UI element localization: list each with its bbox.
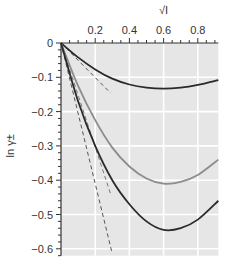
y-tick-label: −0.6 [31, 243, 53, 255]
y-tick-label: −0.5 [31, 209, 53, 221]
x-tick-label: 0.6 [156, 24, 171, 36]
x-tick-label: 0.8 [190, 24, 205, 36]
plot-background [61, 43, 218, 256]
x-tick-label: 0.2 [88, 24, 103, 36]
x-tick-label: 0.4 [122, 24, 137, 36]
y-tick-label: −0.3 [31, 140, 53, 152]
y-tick-label: −0.2 [31, 106, 53, 118]
y-tick-label: −0.4 [31, 174, 53, 186]
y-tick-label: −0.1 [31, 71, 53, 83]
y-tick-label: 0 [47, 37, 53, 49]
plot-area [61, 43, 218, 256]
y-axis-title: ln γ± [4, 134, 16, 157]
chart: 0.20.40.60.80−0.1−0.2−0.3−0.4−0.5−0.6√Il… [0, 0, 226, 271]
x-axis-title: √I [159, 4, 168, 16]
